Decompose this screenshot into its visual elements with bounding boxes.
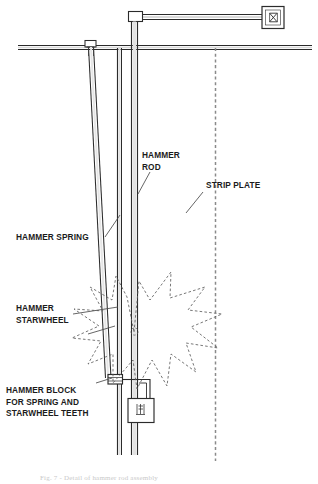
leader-starwheel-2: [88, 326, 115, 334]
diagram-canvas: HAMMER ROD STRIP PLATE HAMMER SPRING HAM…: [0, 0, 318, 484]
leader-hammer-spring: [105, 215, 120, 237]
label-hammer-rod: HAMMER ROD: [142, 150, 180, 173]
leader-hammer-block: [96, 378, 112, 383]
label-hammer-starwheel: HAMMER STARWHEEL: [16, 303, 69, 326]
label-hammer-block: HAMMER BLOCK FOR SPRING AND STARWHEEL TE…: [6, 385, 89, 420]
label-hammer-spring: HAMMER SPRING: [16, 232, 89, 244]
figure-caption: Fig. 7 - Detail of hammer rod assembly: [40, 474, 158, 482]
leader-strip-plate: [186, 192, 203, 213]
leader-hammer-starwheel: [73, 307, 118, 314]
label-strip-plate: STRIP PLATE: [206, 180, 260, 192]
leader-hammer-rod: [138, 172, 150, 194]
